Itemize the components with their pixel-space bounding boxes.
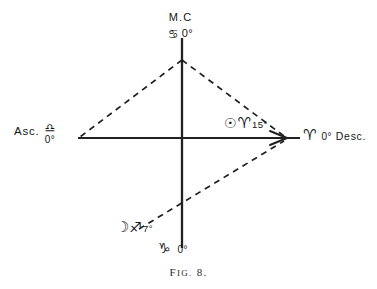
ascendant-label: Asc. ♎ 0°	[14, 122, 55, 145]
imum-coeli-degree: 0°	[178, 245, 188, 255]
figure-8-diagram: M.C ♋ 0° Asc. ♎ 0° ♈ 0° Desc. ☉ ♈ 15° ☽ …	[0, 0, 377, 289]
sun-position-label: ☉ ♈ 15°	[224, 116, 268, 131]
midheaven-degree: 0°	[182, 27, 193, 39]
caption-number: 8.	[193, 266, 208, 278]
aries-glyph-icon-sun: ♈	[238, 116, 251, 131]
descendant-degree: 0°	[321, 132, 331, 142]
caption-prefix: F	[170, 266, 177, 278]
figure-caption: FIG. 8.	[0, 266, 377, 278]
midheaven-name: M.C	[168, 12, 193, 23]
moon-degree: 7°	[143, 224, 153, 234]
moon-symbol-icon: ☽	[116, 220, 129, 235]
ascendant-sign-and-degree: ♎ 0°	[45, 122, 56, 145]
sun-degree: 15°	[252, 120, 268, 130]
sun-symbol-icon: ☉	[224, 116, 237, 130]
astrology-axis-drawing	[0, 0, 377, 289]
moon-position-label: ☽ ♐ 7°	[116, 220, 153, 235]
dashed-line-moon-to-descendant	[139, 141, 284, 229]
midheaven-label: M.C ♋ 0°	[168, 12, 193, 39]
libra-glyph-icon: ♎	[45, 122, 56, 134]
capricorn-glyph-icon: ♑	[158, 241, 171, 255]
dashed-line-mc-to-ascendant	[80, 60, 182, 137]
descendant-name: Desc.	[336, 131, 366, 142]
descendant-label: ♈ 0° Desc.	[303, 128, 366, 143]
cancer-glyph-icon: ♋	[168, 27, 179, 41]
aries-glyph-icon-descendant: ♈	[303, 128, 316, 143]
imum-coeli-label: ♑ 0°	[158, 241, 188, 255]
midheaven-sign-and-degree: ♋ 0°	[168, 27, 193, 39]
ascendant-degree: 0°	[45, 135, 56, 145]
sagittarius-glyph-icon: ♐	[129, 220, 142, 234]
caption-rest: IG.	[177, 268, 193, 278]
ascendant-name: Asc.	[14, 122, 40, 138]
